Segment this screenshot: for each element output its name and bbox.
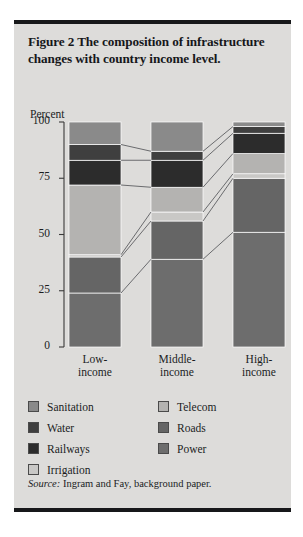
bar-segment (69, 160, 121, 185)
x-axis-tick-label-line: High- (215, 353, 303, 366)
legend-item: Roads (158, 417, 216, 438)
x-axis-tick-label: Low-income (51, 353, 139, 379)
connector-line (203, 232, 233, 259)
bar-segment (151, 160, 203, 187)
legend-swatch (158, 401, 169, 412)
legend-label: Railways (47, 443, 90, 455)
bar-segment (69, 122, 121, 145)
bar-segment (151, 122, 203, 151)
source-prefix: Source: (28, 478, 60, 489)
legend-column-left: SanitationWaterRailwaysIrrigation (28, 396, 94, 480)
x-axis-tick-label-line: income (133, 366, 221, 379)
connector-line (203, 154, 233, 188)
connector-line (121, 212, 151, 255)
bar-segment (233, 232, 285, 347)
bar-segment (69, 257, 121, 293)
bar-segment (233, 174, 285, 179)
legend-column-right: TelecomRoadsPower (158, 396, 216, 459)
bar-segment (233, 122, 285, 127)
bar-segment (233, 127, 285, 134)
y-axis-tick-label: 50 (20, 227, 50, 239)
legend-label: Roads (177, 422, 206, 434)
legend-item: Irrigation (28, 459, 94, 480)
connector-line (203, 133, 233, 160)
bar-segment (151, 151, 203, 160)
connector-line (121, 259, 151, 293)
source-note: Source: Ingram and Fay, background paper… (28, 478, 212, 489)
x-axis-tick-label-line: Middle- (133, 353, 221, 366)
x-axis-tick-label-line: income (51, 366, 139, 379)
legend-item: Railways (28, 438, 94, 459)
legend-item: Power (158, 438, 216, 459)
x-axis-tick-label-line: Low- (51, 353, 139, 366)
bar-segment (151, 212, 203, 221)
legend-swatch (28, 443, 39, 454)
connector-line (121, 145, 151, 152)
figure-panel: Figure 2 The composition of infrastructu… (14, 24, 291, 508)
connector-line (121, 221, 151, 257)
legend-swatch (158, 443, 169, 454)
legend-label: Sanitation (47, 401, 94, 413)
bar-segment (233, 133, 285, 153)
legend-label: Irrigation (47, 464, 90, 476)
legend-item: Telecom (158, 396, 216, 417)
connector-line (203, 127, 233, 152)
bar-segment (233, 154, 285, 174)
bar-segment (69, 185, 121, 255)
bar-segment (151, 187, 203, 212)
x-axis-tick-label: High-income (215, 353, 303, 379)
y-axis-tick-label: 75 (20, 170, 50, 182)
bar-segment (151, 259, 203, 347)
y-axis-tick-label: 25 (20, 283, 50, 295)
legend-item: Sanitation (28, 396, 94, 417)
bar-segment (151, 221, 203, 259)
bottom-rule (14, 508, 291, 512)
legend-swatch (158, 422, 169, 433)
y-axis-tick-label: 100 (20, 114, 50, 126)
legend-swatch (28, 464, 39, 475)
legend-label: Power (177, 443, 206, 455)
figure-page: Figure 2 The composition of infrastructu… (0, 0, 303, 537)
legend-label: Water (47, 422, 74, 434)
legend-item: Water (28, 417, 94, 438)
bar-segment (69, 145, 121, 161)
connector-line (203, 174, 233, 212)
legend-swatch (28, 422, 39, 433)
y-axis-tick-label: 0 (20, 339, 50, 351)
connector-line (121, 185, 151, 187)
bar-segment (69, 293, 121, 347)
legend-label: Telecom (177, 401, 216, 413)
legend-swatch (28, 401, 39, 412)
connector-line (203, 178, 233, 221)
x-axis-tick-label-line: income (215, 366, 303, 379)
bar-segment (233, 178, 285, 232)
source-text: Ingram and Fay, background paper. (60, 478, 211, 489)
x-axis-tick-label: Middle-income (133, 353, 221, 379)
